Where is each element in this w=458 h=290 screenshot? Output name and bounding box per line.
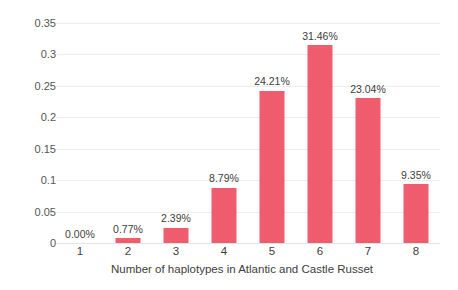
y-tick-label: 0.35 — [0, 18, 56, 29]
gridline — [56, 243, 440, 244]
bar-value-label: 24.21% — [254, 76, 290, 87]
bar-value-label: 23.04% — [350, 84, 386, 95]
y-tick-label: 0 — [0, 238, 56, 249]
bar-value-label: 0.77% — [113, 224, 143, 235]
x-tick-label: 5 — [250, 245, 295, 259]
bar-chart: 00.050.10.150.20.250.30.35 0.00%0.77%2.3… — [0, 0, 458, 290]
bar[interactable] — [356, 98, 381, 243]
bar-group: 24.21% — [250, 23, 295, 243]
x-tick-label: 3 — [154, 245, 199, 259]
plot-area: 0.00%0.77%2.39%8.79%24.21%31.46%23.04%9.… — [56, 23, 440, 243]
x-tick-label: 4 — [202, 245, 247, 259]
y-tick-label: 0.2 — [0, 112, 56, 123]
x-tick-label: 1 — [58, 245, 103, 259]
bar[interactable] — [116, 238, 141, 243]
x-axis-title: Number of haplotypes in Atlantic and Cas… — [0, 263, 458, 277]
bar-group: 2.39% — [154, 23, 199, 243]
x-tick-label: 7 — [346, 245, 391, 259]
bar-group: 0.77% — [106, 23, 151, 243]
y-tick-label: 0.05 — [0, 206, 56, 217]
bar-value-label: 0.00% — [65, 229, 95, 240]
y-tick-label: 0.3 — [0, 49, 56, 60]
y-tick-label: 0.25 — [0, 80, 56, 91]
bar[interactable] — [164, 228, 189, 243]
x-axis: 12345678 — [56, 245, 440, 261]
bar-group: 8.79% — [202, 23, 247, 243]
x-tick-label: 6 — [298, 245, 343, 259]
bar-group: 0.00% — [58, 23, 103, 243]
x-tick-label: 8 — [394, 245, 439, 259]
x-tick-label: 2 — [106, 245, 151, 259]
bar[interactable] — [308, 45, 333, 243]
bar[interactable] — [404, 184, 429, 243]
y-tick-label: 0.15 — [0, 143, 56, 154]
bar-value-label: 9.35% — [401, 170, 431, 181]
bar[interactable] — [212, 188, 237, 243]
bar-value-label: 31.46% — [302, 31, 338, 42]
bar-value-label: 2.39% — [161, 213, 191, 224]
bar[interactable] — [260, 91, 285, 243]
bar-group: 9.35% — [394, 23, 439, 243]
bar-value-label: 8.79% — [209, 173, 239, 184]
y-tick-label: 0.1 — [0, 175, 56, 186]
bar-group: 31.46% — [298, 23, 343, 243]
bar-group: 23.04% — [346, 23, 391, 243]
